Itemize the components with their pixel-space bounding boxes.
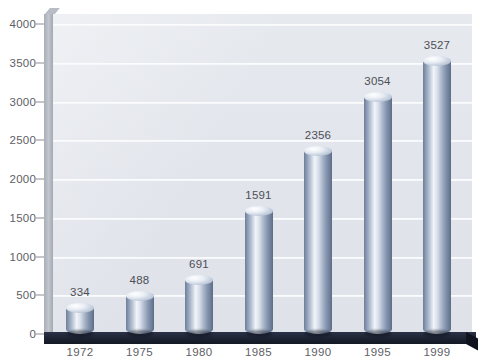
bar-shadow [305, 330, 331, 337]
y-axis-tick-label: 2000 [10, 173, 36, 185]
y-axis-tick-label: 3000 [10, 96, 36, 108]
bar-shadow [67, 330, 93, 337]
bar-top-cap [423, 56, 451, 66]
bar-shadow [246, 330, 272, 337]
bar-top-cap [364, 92, 392, 102]
x-axis-tick-label: 1985 [229, 346, 289, 358]
bar [185, 280, 213, 334]
x-axis-tick-label: 1990 [288, 346, 348, 358]
x-axis-tick-label: 1995 [348, 346, 408, 358]
y-axis-tick-label: 500 [16, 289, 36, 301]
gridline [53, 102, 472, 104]
bar-value-label: 691 [174, 258, 224, 270]
chart-floor-edge [466, 332, 478, 350]
bar [126, 296, 154, 334]
bar-shadow [186, 330, 212, 337]
x-axis-tick-label: 1972 [50, 346, 110, 358]
bar-chart: 05001000150020002500300035004000 3341972… [0, 0, 484, 364]
bar-top-cap [126, 291, 154, 301]
y-axis-tick-labels: 05001000150020002500300035004000 [0, 0, 36, 364]
bar-shadow [424, 330, 450, 337]
x-axis-tick-label: 1980 [169, 346, 229, 358]
bar-top-cap [245, 206, 273, 216]
bar [66, 308, 94, 334]
bar-top-cap [185, 275, 213, 285]
bar-value-label: 3527 [412, 39, 462, 51]
bar [245, 211, 273, 334]
gridline [53, 179, 472, 181]
gridline [53, 63, 472, 65]
bar [423, 61, 451, 334]
gridline [53, 24, 472, 26]
bar-value-label: 2356 [293, 129, 343, 141]
bar-top-cap [304, 146, 332, 156]
bar-value-label: 1591 [234, 189, 284, 201]
bar-value-label: 3054 [353, 75, 403, 87]
gridline [53, 140, 472, 142]
bar-shadow [365, 330, 391, 337]
bar-top-cap [66, 303, 94, 313]
y-axis-tick-label: 4000 [10, 18, 36, 30]
bar-value-label: 488 [115, 274, 165, 286]
y-axis-tick-label: 2500 [10, 134, 36, 146]
y-axis-tick-label: 1000 [10, 251, 36, 263]
x-axis-tick-label: 1999 [407, 346, 467, 358]
bar-value-label: 334 [55, 286, 105, 298]
bar [364, 97, 392, 334]
y-axis-tick-label: 1500 [10, 212, 36, 224]
bar-shadow [127, 330, 153, 337]
bar [304, 151, 332, 334]
y-axis-tick-label: 0 [29, 328, 36, 340]
y-axis-tick-label: 3500 [10, 57, 36, 69]
x-axis-tick-label: 1975 [110, 346, 170, 358]
